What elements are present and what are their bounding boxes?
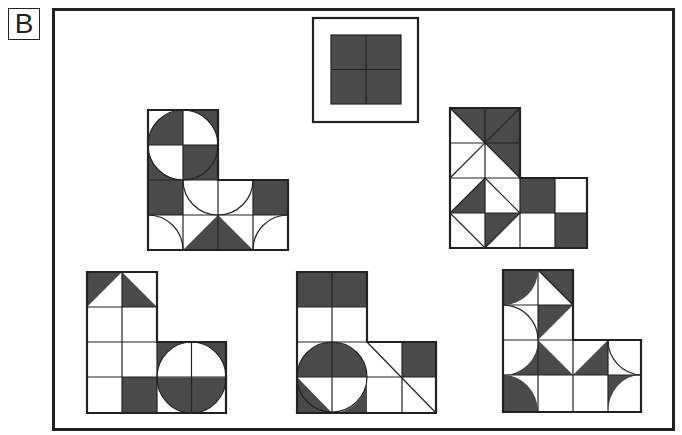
option-shape-3[interactable] <box>87 272 226 413</box>
option-shape-4[interactable] <box>297 272 436 413</box>
option-shape-2[interactable] <box>450 108 587 248</box>
puzzle-canvas: .d { fill: #4a4a4a; } .ln { stroke: #222… <box>0 0 682 435</box>
option-shape-5[interactable] <box>503 270 641 412</box>
option-shape-1[interactable] <box>148 110 288 250</box>
reference-shape <box>313 18 418 122</box>
